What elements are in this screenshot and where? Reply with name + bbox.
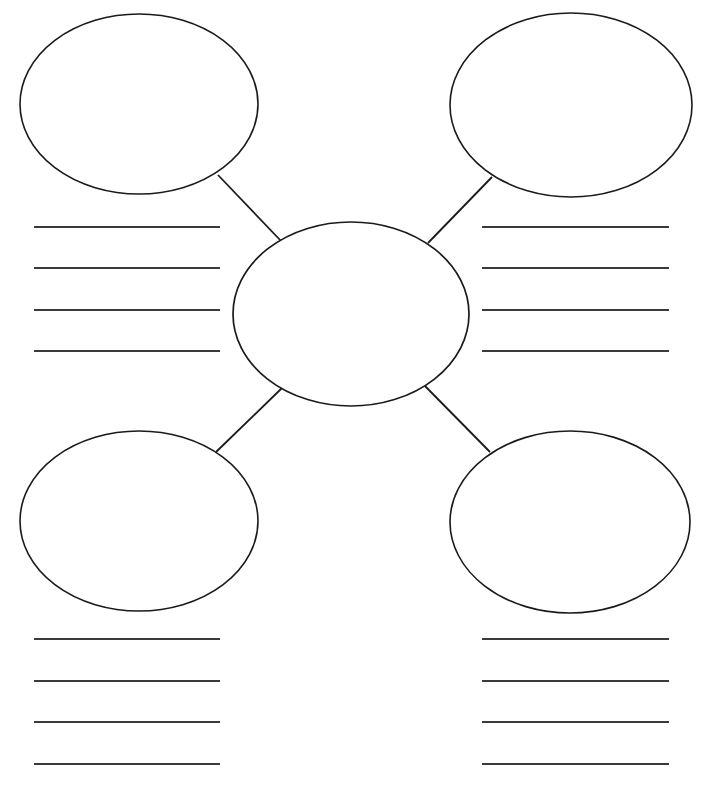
writing-lines-bottom-left xyxy=(34,639,220,764)
node-top-left[interactable] xyxy=(20,14,258,194)
node-bottom-left-shape[interactable] xyxy=(20,431,258,611)
connector-center-to-top-right xyxy=(428,177,492,243)
connector-center-to-bottom-right xyxy=(425,386,490,452)
graphic-organizer-worksheet xyxy=(0,0,707,788)
concept-map-canvas xyxy=(0,0,707,788)
node-top-right[interactable] xyxy=(450,13,692,197)
node-top-right-shape[interactable] xyxy=(450,13,692,197)
writing-lines-bottom-right xyxy=(482,639,669,764)
writing-lines-top-right xyxy=(482,227,669,351)
node-bottom-left[interactable] xyxy=(20,431,258,611)
center-topic-shape[interactable] xyxy=(233,222,469,406)
center-ellipse-group xyxy=(233,222,469,406)
connector-center-to-bottom-left xyxy=(216,388,282,452)
writing-lines-top-left xyxy=(34,227,220,351)
connector-center-to-top-left xyxy=(218,175,282,242)
node-top-left-shape[interactable] xyxy=(20,14,258,194)
node-bottom-right[interactable] xyxy=(450,431,690,613)
node-bottom-right-shape[interactable] xyxy=(450,431,690,613)
center-topic[interactable] xyxy=(233,222,469,406)
